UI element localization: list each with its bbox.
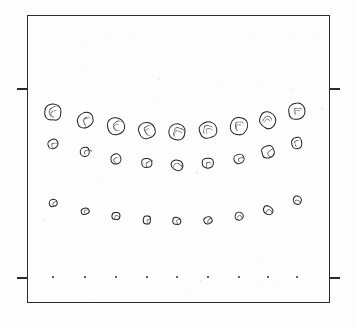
scan-speck [325, 152, 327, 154]
data-dot [296, 276, 298, 278]
particle-shading-stroke [51, 142, 59, 149]
scan-speck [226, 266, 227, 267]
scan-speck [88, 97, 89, 98]
scan-speck [259, 85, 261, 87]
scan-speck [134, 35, 135, 36]
scan-speck [184, 291, 185, 292]
data-dot [146, 276, 148, 278]
scan-speck [188, 291, 190, 293]
scan-speck [132, 255, 133, 256]
scan-speck [258, 280, 260, 282]
scan-speck [128, 127, 130, 129]
particle-shading-stroke [206, 161, 213, 169]
particle-mark [44, 103, 62, 121]
scan-speck [255, 42, 256, 43]
figure-canvas [0, 0, 357, 327]
scan-speck [172, 136, 173, 137]
particle-shading-stroke [84, 209, 90, 214]
scan-speck [196, 172, 198, 174]
scan-speck [321, 109, 323, 111]
scan-speck [43, 220, 45, 222]
scan-speck [237, 262, 238, 263]
scan-speck [92, 299, 93, 300]
scan-speck [246, 51, 247, 52]
scan-speck [187, 140, 188, 141]
tick-left-upper [17, 88, 28, 90]
particle-shading-stroke [293, 139, 300, 147]
scan-speck [261, 256, 263, 258]
scan-speck [69, 262, 70, 263]
particle-shading-stroke [113, 214, 120, 221]
particle-mark [111, 211, 121, 220]
scan-speck [242, 178, 243, 179]
data-dot [115, 276, 117, 278]
tick-left-lower [17, 277, 28, 279]
scan-speck [243, 158, 245, 160]
scan-speck [164, 287, 166, 289]
data-dot [238, 276, 240, 278]
data-dot [267, 276, 269, 278]
data-dot [52, 276, 54, 278]
tick-right-lower [329, 277, 340, 279]
scan-speck [159, 79, 161, 81]
scan-speck [235, 91, 236, 92]
tick-right-upper [329, 88, 340, 90]
data-dot [176, 276, 178, 278]
scan-speck [319, 37, 320, 38]
scan-speck [166, 194, 167, 195]
particle-shading-stroke [206, 127, 214, 134]
scan-speck [112, 113, 113, 114]
particle-mark [141, 158, 153, 169]
particle-mark [142, 215, 151, 225]
scan-speck [133, 154, 134, 155]
data-dot [207, 276, 209, 278]
scan-speck [195, 57, 196, 58]
particle-mark [202, 158, 215, 169]
particle-shading-stroke [295, 109, 301, 114]
data-dot [84, 276, 86, 278]
scan-speck [295, 274, 296, 275]
scan-speck [293, 89, 295, 91]
scan-speck [157, 63, 158, 64]
scan-speck [174, 22, 175, 23]
scan-speck [272, 41, 273, 42]
scan-speck [277, 280, 279, 282]
